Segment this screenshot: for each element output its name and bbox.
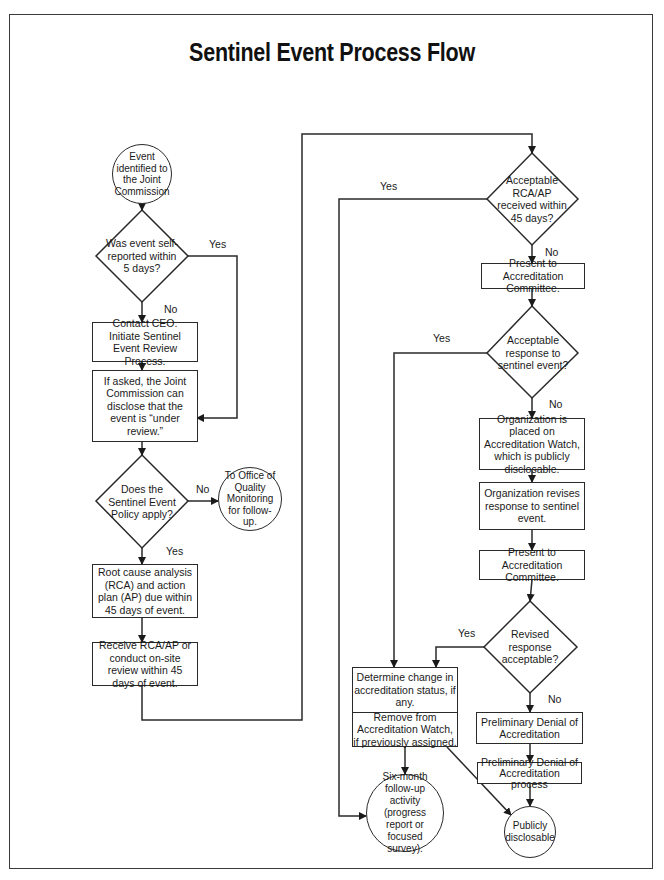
self-reported-question: Was event self-reported within 5 days?: [106, 234, 178, 278]
if-asked-box: If asked, the Joint Commission can discl…: [92, 370, 198, 442]
no-label-revised: No: [548, 693, 561, 705]
no-label-response: No: [549, 398, 562, 410]
yes-label-self-reported: Yes: [209, 238, 226, 250]
policy-apply-question: Does the Sentinel Event Policy apply?: [104, 480, 180, 524]
determine-change-box: Determine change in accreditation status…: [352, 667, 458, 747]
org-revises-box: Organization revises response to sentine…: [479, 482, 585, 530]
rca-acceptable-question: Acceptable RCA/AP received within 45 day…: [494, 172, 570, 226]
publicly-disclosable-circle: Publicly disclosable: [504, 806, 556, 858]
present-committee-box-1: Present to Accreditation Committee.: [481, 263, 585, 289]
receive-rca-box: Receive RCA/AP or conduct on-site review…: [92, 642, 198, 686]
revised-acceptable-question: Revised response acceptable?: [494, 626, 566, 668]
yes-label-policy: Yes: [166, 545, 183, 557]
no-label-policy: No: [196, 483, 209, 495]
prelim-denial-box: Preliminary Denial of Accreditation: [476, 712, 583, 744]
start-circle: Event identified to the Joint Commission: [112, 144, 172, 204]
present-committee-box-2: Present to Accreditation Committee.: [479, 550, 585, 580]
yes-label-response: Yes: [433, 332, 450, 344]
contact-ceo-box: Contact CEO. Initiate Sentinel Event Rev…: [92, 322, 198, 362]
rca-due-box: Root cause analysis (RCA) and action pla…: [92, 564, 198, 618]
no-label-rca: No: [545, 246, 558, 258]
office-quality-circle: To Office of Quality Monitoring for foll…: [218, 467, 282, 531]
yes-label-revised: Yes: [458, 627, 475, 639]
no-label-self-reported: No: [164, 303, 177, 315]
remove-watch-text: Remove from Accreditation Watch, if prev…: [353, 713, 457, 746]
six-month-circle: Six-month follow-up activity (progress r…: [366, 774, 444, 852]
yes-label-rca: Yes: [380, 180, 397, 192]
determine-change-text: Determine change in accreditation status…: [353, 668, 457, 713]
prelim-denial-process-box: Preliminary Denial of Accreditation proc…: [477, 762, 582, 784]
response-acceptable-question: Acceptable response to sentinel event?: [496, 332, 570, 374]
accreditation-watch-box: Organization is placed on Accreditation …: [479, 418, 585, 470]
